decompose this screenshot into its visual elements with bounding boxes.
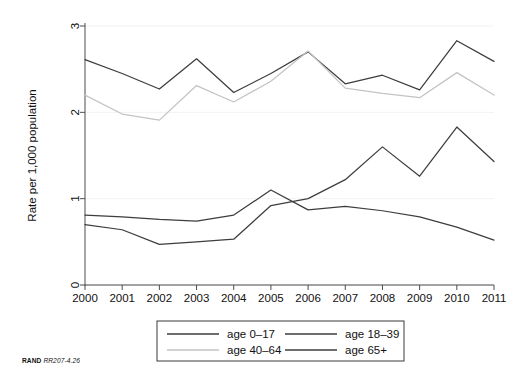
series-line-age-18-39 xyxy=(85,127,494,244)
x-tick-label-2007: 2007 xyxy=(332,292,358,304)
rand-logo-text: RAND xyxy=(22,357,41,364)
x-tick-label-2006: 2006 xyxy=(295,292,321,304)
x-tick-label-2000: 2000 xyxy=(72,292,98,304)
data-series-group xyxy=(85,41,494,245)
x-tick-label-2005: 2005 xyxy=(258,292,284,304)
x-tick-label-2001: 2001 xyxy=(109,292,135,304)
x-tick-label-2004: 2004 xyxy=(221,292,247,304)
figure-credit: RAND RR207-4.26 xyxy=(22,357,80,364)
line-chart: 0123 20002001200220032004200520062007200… xyxy=(0,0,516,381)
y-tick-label-3: 3 xyxy=(69,23,81,29)
legend-label: age 18–39 xyxy=(345,328,399,340)
x-tick-label-2008: 2008 xyxy=(370,292,396,304)
x-tick-label-2002: 2002 xyxy=(147,292,173,304)
series-line-age-65 xyxy=(85,190,494,240)
figure-number: RR207-4.26 xyxy=(43,357,80,364)
legend-label: age 65+ xyxy=(345,344,387,356)
gridlines xyxy=(85,26,494,285)
series-line-age-40-64 xyxy=(85,51,494,120)
x-tick-label-2009: 2009 xyxy=(407,292,433,304)
y-tick-label-2: 2 xyxy=(69,109,81,115)
legend-label: age 40–64 xyxy=(227,344,282,356)
y-axis-ticks: 0123 xyxy=(69,23,85,288)
chart-legend: age 0–17age 18–39age 40–64age 65+ xyxy=(157,321,404,361)
x-tick-label-2003: 2003 xyxy=(184,292,210,304)
y-axis-label: Rate per 1,000 population xyxy=(26,89,38,221)
y-tick-label-1: 1 xyxy=(69,195,81,201)
x-tick-label-2010: 2010 xyxy=(444,292,470,304)
x-axis-ticks: 2000200120022003200420052006200720082009… xyxy=(72,285,506,304)
figure-container: 0123 20002001200220032004200520062007200… xyxy=(0,0,516,381)
x-tick-label-2011: 2011 xyxy=(482,292,507,304)
legend-label: age 0–17 xyxy=(227,328,275,340)
y-tick-label-0: 0 xyxy=(69,282,81,288)
